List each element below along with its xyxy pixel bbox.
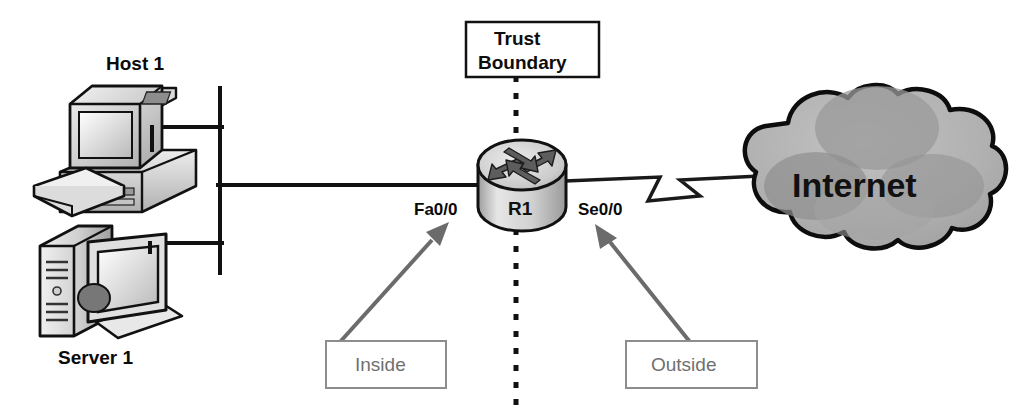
inside-zone-callout: Inside xyxy=(326,222,449,388)
internet-cloud-node: Internet xyxy=(745,85,1006,248)
serial-link-lightning xyxy=(565,176,760,201)
outside-pointer-arrow xyxy=(595,224,690,342)
outside-zone-label: Outside xyxy=(651,354,716,375)
server-tower-icon xyxy=(40,226,182,338)
desktop-computer-icon xyxy=(34,86,196,216)
trust-boundary-box: Trust Boundary xyxy=(466,22,599,77)
host-1-label: Host 1 xyxy=(106,53,165,74)
router-name-label: R1 xyxy=(508,198,533,219)
inside-pointer-arrow xyxy=(340,222,449,342)
server-1-node: Server 1 xyxy=(40,226,182,368)
network-diagram: Host 1 Server 1 xyxy=(0,0,1035,412)
server-1-label: Server 1 xyxy=(58,347,133,368)
diagram-canvas: Host 1 Server 1 xyxy=(0,0,1035,412)
trust-boundary-line2: Boundary xyxy=(478,52,567,73)
interface-label-outside: Se0/0 xyxy=(578,200,622,219)
inside-zone-label: Inside xyxy=(355,354,406,375)
interface-label-inside: Fa0/0 xyxy=(414,200,457,219)
host-1-node: Host 1 xyxy=(34,53,196,216)
internet-cloud-label: Internet xyxy=(792,166,917,204)
outside-zone-callout: Outside xyxy=(595,224,757,388)
trust-boundary-line1: Trust xyxy=(494,28,541,49)
